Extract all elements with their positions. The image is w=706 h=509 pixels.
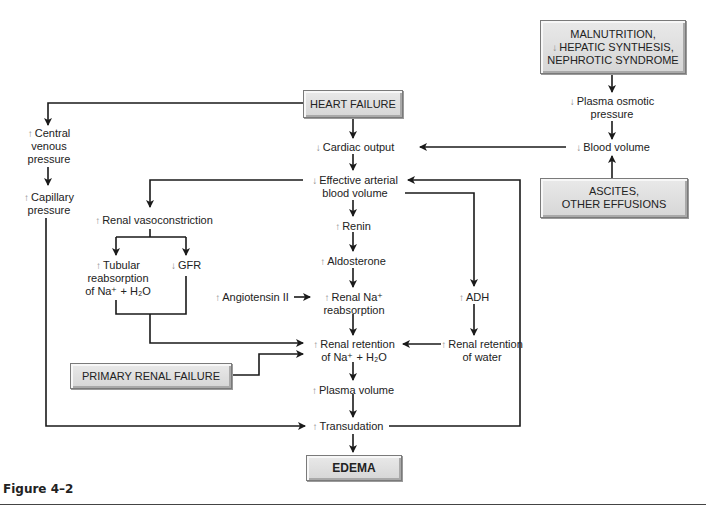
ascites-line-1: ASCITES, xyxy=(589,185,639,198)
label-text: pressure xyxy=(28,204,71,216)
down-arrow-icon: ↓ xyxy=(576,142,581,153)
renal-vasoconstriction: ↑Renal vasoconstriction xyxy=(84,214,224,227)
up-arrow-icon: ↑ xyxy=(24,192,29,203)
aldosterone: ↑Aldosterone xyxy=(308,255,398,268)
label-text: Transudation xyxy=(320,420,384,432)
down-arrow-icon: ↓ xyxy=(312,175,317,186)
label-text: Blood volume xyxy=(583,141,650,153)
down-arrow-icon: ↓ xyxy=(171,260,176,271)
label-text: Plasma volume xyxy=(319,384,394,396)
label-text: Plasma osmotic xyxy=(577,95,655,107)
angiotensin-ii: ↑Angiotensin II xyxy=(210,291,294,304)
up-arrow-icon: ↑ xyxy=(313,339,318,350)
down-arrow-icon: ↓ xyxy=(552,42,557,53)
label-text: blood volume xyxy=(322,187,387,199)
label-text: Tubular xyxy=(103,259,140,271)
renal-retention-water: ↑Renal retention of water xyxy=(436,338,528,364)
label-text: Cardiac output xyxy=(323,141,395,153)
renal-na-reabsorption: ↑Renal Na⁺ reabsorption xyxy=(310,291,398,317)
blood-volume: ↓Blood volume xyxy=(568,141,658,154)
label-text: Renal retention xyxy=(320,338,395,350)
label-text: Renal Na⁺ xyxy=(332,291,384,303)
malnutrition-line-1: MALNUTRITION, xyxy=(570,28,656,41)
up-arrow-icon: ↑ xyxy=(95,215,100,226)
plasma-osmotic-pressure: ↓Plasma osmotic pressure xyxy=(562,95,662,121)
up-arrow-icon: ↑ xyxy=(441,339,446,350)
caption-rule xyxy=(0,504,706,505)
malnutrition-line-3: NEPHROTIC SYNDROME xyxy=(547,54,678,67)
ascites-line-2: OTHER EFFUSIONS xyxy=(562,198,667,211)
label-text: Renal retention xyxy=(448,338,523,350)
adh: ↑ADH xyxy=(444,291,504,304)
malnutrition-box: MALNUTRITION, ↓HEPATIC SYNTHESIS, NEPHRO… xyxy=(540,20,686,74)
label-text: Renin xyxy=(342,220,371,232)
transudation: ↑Transudation xyxy=(306,420,390,433)
up-arrow-icon: ↑ xyxy=(335,221,340,232)
renin: ↑Renin xyxy=(318,220,388,233)
ascites-box: ASCITES, OTHER EFFUSIONS xyxy=(540,178,688,218)
label-text: Aldosterone xyxy=(327,255,386,267)
central-venous-pressure: ↑Central venous pressure xyxy=(14,127,84,166)
malnutrition-line-2: HEPATIC SYNTHESIS, xyxy=(559,41,674,53)
heart-failure-box: HEART FAILURE xyxy=(303,90,403,118)
effective-arterial-blood-volume: ↓Effective arterial blood volume xyxy=(300,174,410,200)
label-text: Renal vasoconstriction xyxy=(102,214,213,226)
label-text: Angiotensin II xyxy=(222,291,289,303)
up-arrow-icon: ↑ xyxy=(325,292,330,303)
label-text: Effective arterial xyxy=(319,174,398,186)
tubular-reabsorption: ↑Tubular reabsorption of Na⁺ + H₂O xyxy=(80,259,156,298)
label-text: of Na⁺ + H₂O xyxy=(85,285,151,297)
plasma-volume: ↑Plasma volume xyxy=(306,384,400,397)
gfr: ↓GFR xyxy=(166,259,206,272)
label-text: GFR xyxy=(178,259,201,271)
renal-retention-na-h2o: ↑Renal retention of Na⁺ + H₂O xyxy=(304,338,404,364)
cardiac-output: ↓Cardiac output xyxy=(300,141,410,154)
label-text: venous xyxy=(31,140,66,152)
up-arrow-icon: ↑ xyxy=(459,292,464,303)
heart-failure-label: HEART FAILURE xyxy=(310,98,396,111)
up-arrow-icon: ↑ xyxy=(313,421,318,432)
up-arrow-icon: ↑ xyxy=(312,385,317,396)
down-arrow-icon: ↓ xyxy=(316,142,321,153)
primary-renal-failure-label: PRIMARY RENAL FAILURE xyxy=(82,370,220,383)
up-arrow-icon: ↑ xyxy=(215,292,220,303)
up-arrow-icon: ↑ xyxy=(320,256,325,267)
up-arrow-icon: ↑ xyxy=(96,260,101,271)
label-text: Capillary xyxy=(31,191,74,203)
down-arrow-icon: ↓ xyxy=(570,96,575,107)
edema-box: EDEMA xyxy=(306,455,402,481)
label-text: pressure xyxy=(591,108,634,120)
primary-renal-failure-box: PRIMARY RENAL FAILURE xyxy=(70,363,232,389)
capillary-pressure: ↑Capillary pressure xyxy=(14,191,84,217)
edema-label: EDEMA xyxy=(332,462,375,475)
label-text: reabsorption xyxy=(323,304,384,316)
label-text: of Na⁺ + H₂O xyxy=(321,351,387,363)
figure-caption: Figure 4–2 xyxy=(3,482,73,496)
label-text: reabsorption xyxy=(87,272,148,284)
label-text: ADH xyxy=(466,291,489,303)
up-arrow-icon: ↑ xyxy=(28,128,33,139)
label-text: Central xyxy=(35,127,70,139)
label-text: pressure xyxy=(28,153,71,165)
label-text: of water xyxy=(462,351,501,363)
